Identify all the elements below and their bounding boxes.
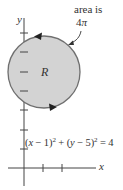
region-label: R [41,66,48,78]
eq-minus-1: − 1) [33,137,52,148]
green-theorem-diagram: y x R area is 4π (x − 1)2 + (y − 5)2 = 4 [0,0,123,190]
area-annotation-line2: 4π [76,17,87,28]
diagram-canvas [0,0,123,190]
area-value-pi: π [82,16,88,28]
annotation-arrowhead-icon [68,41,74,46]
eq-equals-4: = 4 [97,137,113,148]
circle-equation: (x − 1)2 + (y − 5)2 = 4 [25,138,114,149]
eq-plus: + ( [56,137,70,148]
x-axis-label: x [99,161,104,172]
eq-minus-5: − 5) [75,137,94,148]
y-axis-label: y [17,14,22,25]
area-annotation-line1: area is [74,4,102,15]
